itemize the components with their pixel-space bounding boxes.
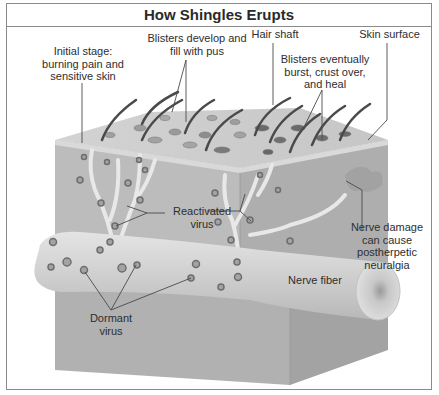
label-line: Nerve fiber	[280, 274, 350, 287]
label-initial-stage: Initial stage: burning pain and sensitiv…	[33, 45, 133, 83]
label-skin-surface: Skin surface	[352, 28, 427, 41]
label-line: Dormant	[80, 312, 142, 325]
label-line: and heal	[275, 78, 375, 91]
label-blisters-develop: Blisters develop and fill with pus	[137, 32, 257, 57]
label-line: Blisters develop and	[137, 32, 257, 45]
label-line: virus	[162, 218, 242, 231]
label-hair-shaft: Hair shaft	[245, 28, 305, 41]
label-line: Reactivated	[162, 205, 242, 218]
label-line: Blisters eventually	[275, 53, 375, 66]
label-blisters-heal: Blisters eventually burst, crust over, a…	[275, 53, 375, 91]
label-reactivated-virus: Reactivated virus	[162, 205, 242, 230]
label-line: sensitive skin	[33, 70, 133, 83]
label-line: Nerve damage	[342, 221, 432, 234]
label-line: fill with pus	[137, 45, 257, 58]
label-line: Skin surface	[352, 28, 427, 41]
label-line: postherpetic	[342, 246, 432, 259]
label-line: burning pain and	[33, 58, 133, 71]
label-line: Hair shaft	[245, 28, 305, 41]
label-dormant-virus: Dormant virus	[80, 312, 142, 337]
label-line: burst, crust over,	[275, 66, 375, 79]
label-nerve-damage: Nerve damage can cause postherpetic neur…	[342, 221, 432, 271]
label-line: can cause	[342, 234, 432, 247]
label-line: neuralgia	[342, 259, 432, 272]
label-line: Initial stage:	[33, 45, 133, 58]
label-line: virus	[80, 325, 142, 338]
label-nerve-fiber: Nerve fiber	[280, 274, 350, 287]
